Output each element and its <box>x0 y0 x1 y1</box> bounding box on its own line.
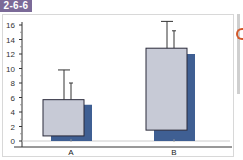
y-tick-label: 10 <box>6 65 15 74</box>
box-a <box>43 100 84 136</box>
box-chart: 0246810121416AB <box>0 0 243 160</box>
y-tick-label: 4 <box>11 108 16 117</box>
y-tick-label: 6 <box>11 94 16 103</box>
box-b <box>146 48 187 130</box>
x-tick-label-b: B <box>171 148 176 157</box>
y-tick-label: 8 <box>11 79 16 88</box>
y-tick-label: 2 <box>11 123 16 132</box>
y-tick-label: 16 <box>6 21 15 30</box>
x-tick-label-a: A <box>68 148 74 157</box>
y-tick-label: 14 <box>6 36 15 45</box>
y-tick-label: 12 <box>6 50 15 59</box>
y-tick-label: 0 <box>11 137 16 146</box>
